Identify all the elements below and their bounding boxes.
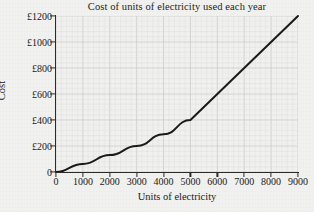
x-tick-label: 1000 — [73, 176, 93, 187]
x-tick-mark — [271, 172, 272, 177]
y-axis-line — [55, 15, 56, 173]
chart-container: Cost of units of electricity used each y… — [0, 0, 314, 212]
x-tick-label: 2000 — [100, 176, 120, 187]
x-tick-mark — [136, 172, 137, 177]
x-tick-label: 4000 — [154, 176, 174, 187]
y-tick-label: £800 — [32, 63, 52, 74]
x-tick-mark — [297, 172, 298, 177]
x-tick-label: 0 — [54, 176, 59, 187]
y-tick-label: £1200 — [27, 11, 52, 22]
x-tick-label: 5000 — [180, 176, 200, 187]
y-tick-label: £600 — [32, 89, 52, 100]
y-axis-title: Cost — [0, 81, 7, 100]
x-tick-mark — [55, 172, 56, 177]
y-tick-label: £1000 — [27, 37, 52, 48]
x-axis-title: Units of electricity — [56, 191, 298, 202]
x-tick-label: 7000 — [234, 176, 254, 187]
x-tick-label: 8000 — [261, 176, 281, 187]
data-series-line — [56, 16, 298, 172]
chart-title: Cost of units of electricity used each y… — [56, 1, 298, 12]
y-tick-label: £200 — [32, 141, 52, 152]
x-tick-mark — [109, 172, 110, 177]
series-path — [56, 16, 298, 172]
x-tick-label: 6000 — [207, 176, 227, 187]
plot-area — [56, 16, 298, 172]
x-tick-label: 9000 — [288, 176, 308, 187]
x-tick-mark — [82, 172, 83, 177]
x-tick-mark — [244, 172, 245, 177]
y-tick-label: £400 — [32, 115, 52, 126]
x-tick-mark — [217, 172, 218, 177]
x-tick-label: 3000 — [127, 176, 147, 187]
x-tick-mark — [163, 172, 164, 177]
x-axis-line — [55, 172, 299, 173]
x-tick-mark — [190, 172, 191, 177]
